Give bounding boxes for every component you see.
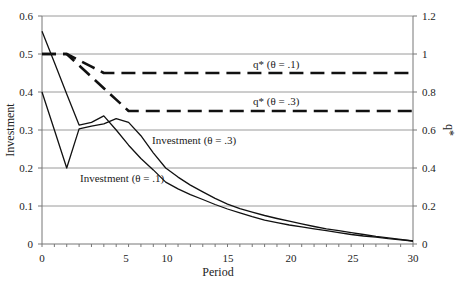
q-star-line: [42, 54, 413, 73]
series-annotation: Investment (θ = .1): [80, 172, 165, 185]
x-tick-label: 20: [286, 252, 298, 264]
y2-axis-label: q*: [443, 124, 457, 136]
y2-tick-label: 1.2: [422, 10, 436, 22]
y2-tick-label: 0.2: [422, 200, 436, 212]
y2-tick-label: 0.6: [422, 124, 436, 136]
line-chart: 00.10.20.30.40.50.600.20.40.60.811.20510…: [0, 0, 460, 286]
x-tick-label: 10: [162, 252, 174, 264]
investment-line: [42, 92, 413, 241]
y2-tick-label: 0.4: [422, 162, 436, 174]
q-star-line: [42, 54, 413, 111]
x-tick-label: 5: [123, 252, 129, 264]
x-tick-label: 30: [408, 252, 420, 264]
y-tick-label: 0.2: [19, 162, 33, 174]
y-axis-label: Investment: [3, 103, 17, 157]
series-annotation: q* (θ = .3): [253, 95, 300, 108]
y2-tick-label: 1: [422, 48, 428, 60]
y-tick-label: 0.6: [19, 10, 33, 22]
y-tick-label: 0.1: [19, 200, 33, 212]
series-annotation: Investment (θ = .3): [152, 134, 237, 147]
x-axis-label: Period: [202, 265, 233, 279]
y-tick-label: 0.4: [19, 86, 33, 98]
y-tick-label: 0.3: [19, 124, 33, 136]
x-tick-label: 0: [39, 252, 45, 264]
y-tick-label: 0: [28, 238, 34, 250]
y2-tick-label: 0.8: [422, 86, 436, 98]
y-tick-label: 0.5: [19, 48, 33, 60]
x-tick-label: 25: [348, 252, 360, 264]
x-tick-label: 15: [223, 252, 235, 264]
series-annotation: q* (θ = .1): [253, 58, 300, 71]
y2-tick-label: 0: [422, 238, 428, 250]
annotations: q* (θ = .1)q* (θ = .3)Investment (θ = .3…: [80, 58, 300, 185]
